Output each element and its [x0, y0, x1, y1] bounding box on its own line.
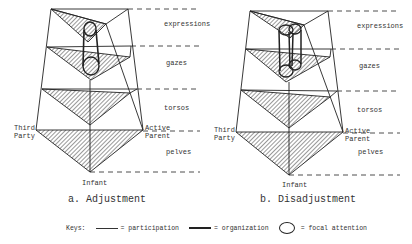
pelves-triangle: [236, 132, 343, 175]
vertex-label-third: Third: [14, 124, 35, 132]
level-label-gazes: gazes: [359, 62, 380, 70]
legend-focal-attention: = focal attention: [301, 225, 367, 232]
focal-attention-circle-icon: [279, 222, 295, 234]
torsos-triangle: [42, 89, 130, 125]
vertex-label-infant: Infant: [82, 179, 107, 187]
level-label-expressions: expressions: [164, 20, 210, 28]
torsos-triangle: [241, 90, 330, 128]
diagram-canvas: [0, 0, 412, 244]
level-label-torsos: torsos: [164, 104, 189, 112]
vertex-label-third: Third: [214, 126, 235, 134]
level-label-torsos: torsos: [357, 106, 382, 114]
level-label-expressions: expressions: [357, 22, 403, 30]
legend-participation: = participation: [121, 225, 180, 232]
vertex-label-active: Active: [345, 127, 370, 135]
vertex-label-party: Party: [214, 134, 235, 142]
vertex-label-infant: Infant: [282, 181, 307, 189]
legend-keys: Keys: = participation = organization = f…: [66, 222, 371, 234]
caption-a: a. Adjustment: [68, 194, 146, 205]
level-label-pelves: pelves: [358, 148, 383, 156]
pelves-triangle: [36, 130, 143, 172]
vertex-label-parent: Parent: [345, 135, 370, 143]
level-label-gazes: gazes: [166, 59, 187, 67]
vertex-label-active: Active: [145, 124, 170, 132]
legend-title: Keys:: [66, 225, 86, 232]
level-label-pelves: pelves: [166, 148, 191, 156]
organization-line-icon: [189, 227, 211, 229]
expressions-triangle: [51, 9, 106, 42]
caption-b: b. Disadjustment: [260, 194, 356, 205]
vertex-label-party: Party: [14, 132, 35, 140]
legend-organization: = organization: [214, 225, 269, 232]
participation-line-icon: [96, 228, 118, 229]
vertex-label-parent: Parent: [145, 132, 170, 140]
